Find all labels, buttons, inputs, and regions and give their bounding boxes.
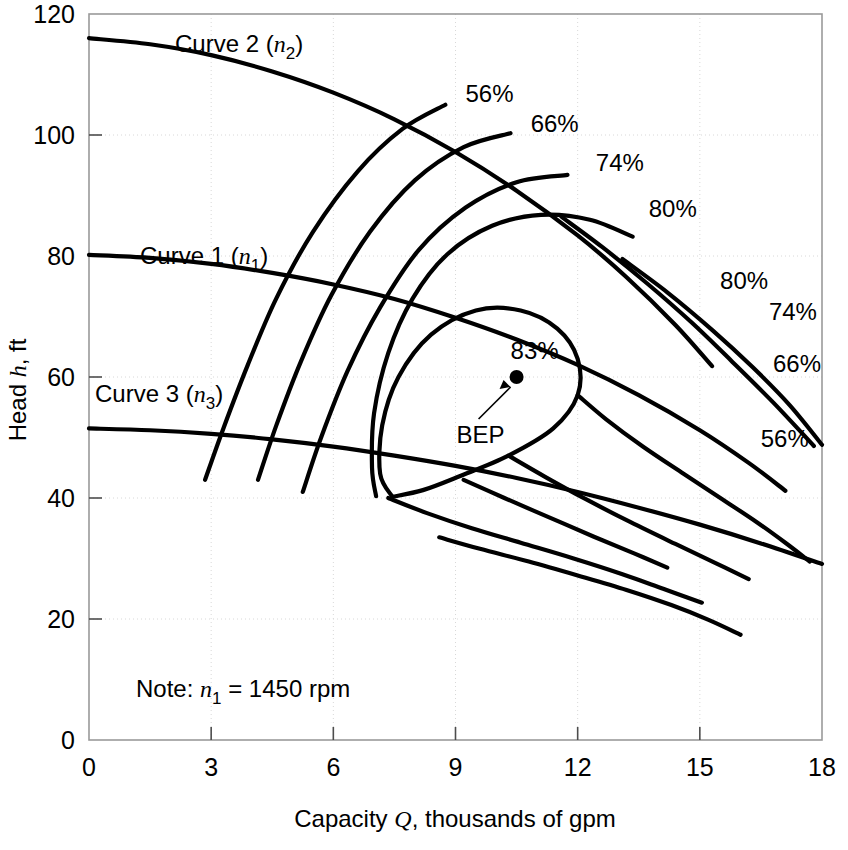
head-capacity-curves [89, 38, 822, 564]
efficiency-lower-branch [578, 395, 810, 561]
x-tick-label: 0 [82, 753, 96, 781]
bep-point-marker [510, 370, 524, 384]
head-curve-label: Curve 3 (n3) [95, 380, 223, 413]
speed-symbol: n [274, 31, 286, 57]
bep-annotation: 83%BEP [457, 337, 559, 448]
x-tick-label: 3 [204, 753, 218, 781]
y-axis-title: Head h, ft [4, 338, 31, 441]
speed-symbol: n [194, 381, 206, 407]
grid-lines [89, 14, 822, 740]
efficiency-label: 80% [649, 195, 697, 222]
bep-leader-line [479, 387, 511, 419]
paren-close: ) [260, 242, 268, 269]
efficiency-label: 74% [769, 298, 817, 325]
head-curve-label: Curve 2 (n2) [175, 30, 303, 63]
x-axis-title: Capacity Q, thousands of gpm [294, 805, 616, 832]
efficiency-label: 66% [531, 110, 579, 137]
efficiency-label: 80% [720, 267, 768, 294]
x-axis-tick-labels: 0369121518 [82, 753, 836, 781]
note-text: Note: n1 = 1450 rpm [136, 675, 350, 708]
pump-performance-chart: 0369121518 020406080100120 56%66%74%80%5… [0, 0, 848, 850]
efficiency-descending-curves [388, 498, 740, 635]
y-axis-tick-labels: 020406080100120 [33, 0, 75, 754]
x-tick-label: 15 [686, 753, 714, 781]
x-tick-label: 18 [808, 753, 836, 781]
bep-label: BEP [457, 421, 505, 448]
note-speed-symbol: n [200, 676, 212, 702]
speed-symbol: n [239, 243, 251, 269]
chart-canvas: 0369121518 020406080100120 56%66%74%80%5… [0, 0, 848, 850]
efficiency-label: 74% [596, 149, 644, 176]
capacity-symbol: Q [394, 806, 411, 832]
x-tick-label: 12 [564, 753, 592, 781]
head-symbol: h [5, 365, 31, 377]
note-value: = 1450 rpm [222, 675, 351, 702]
y-tick-label: 0 [61, 726, 75, 754]
note-speed-subscript: 1 [212, 689, 221, 708]
efficiency-right-tail-curves [561, 217, 822, 446]
speed-subscript: 2 [286, 44, 295, 63]
y-tick-label: 100 [33, 121, 75, 149]
efficiency-label: 56% [761, 425, 809, 452]
chart-note: Note: n1 = 1450 rpm [136, 675, 350, 708]
y-tick-label: 120 [33, 0, 75, 28]
efficiency-label: 56% [466, 80, 514, 107]
y-tick-label: 60 [47, 363, 75, 391]
speed-subscript: 3 [206, 394, 215, 413]
speed-subscript: 1 [251, 256, 260, 275]
x-tick-label: 6 [326, 753, 340, 781]
paren-close: ) [295, 30, 303, 57]
head-capacity-curve [89, 255, 785, 491]
paren-close: ) [215, 380, 223, 407]
head-curve-labels: Curve 2 (n2)Curve 1 (n1)Curve 3 (n3) [95, 30, 303, 413]
y-tick-label: 80 [47, 242, 75, 270]
bep-efficiency-label: 83% [511, 337, 559, 364]
y-tick-label: 40 [47, 484, 75, 512]
efficiency-label: 66% [773, 350, 821, 377]
x-tick-label: 9 [449, 753, 463, 781]
y-tick-label: 20 [47, 605, 75, 633]
efficiency-lower-branch-curves [464, 395, 810, 579]
